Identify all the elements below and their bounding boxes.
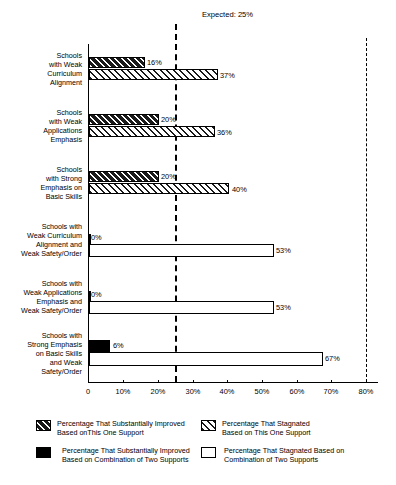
category-label: Schools with Weak Curriculum Alignment [4,51,82,87]
category-label-line: Strong Emphasis [2,340,82,349]
bar-stagnated[interactable] [89,183,229,194]
bar-value-label: 6% [113,341,124,350]
category-label-line: Curriculum [4,69,82,78]
x-axis-line [88,382,378,383]
legend-label-line: Percentage That Stagnated [222,419,372,428]
legend-item-stagnated-two-supports: Percentage That Stagnated Based on Combi… [224,446,374,465]
axis-tick-label: 20% [146,387,170,396]
legend-label-line: Percentage That Substantially Improved [62,446,202,455]
category-label-line: Basic Skills [4,192,82,201]
legend-label-line: Based onThis One Support [57,428,202,437]
axis-tick [123,380,124,383]
category-label: Schools with Weak Applications Emphasis … [2,279,82,315]
axis-tick-label: 30% [181,387,205,396]
category-label-line: Alignment [4,78,82,87]
bar-improved[interactable] [89,171,159,182]
legend-item-improved-one-support: Percentage That Substantially Improved B… [57,419,202,438]
legend-label-line: Based on This One Support [222,428,372,437]
axis-tick-label: 80% [354,387,378,396]
bar-value-label: 37% [220,71,235,80]
category-label-line: Weak Curriculum [2,231,82,240]
category-label-line: Alignment and [2,240,82,249]
category-label-line: Schools [4,108,82,117]
category-label-line: Emphasis and [2,297,82,306]
category-label-line: with Strong [4,174,82,183]
category-label-line: Applications [4,126,82,135]
axis-tick-label: 70% [319,387,343,396]
bar-improved[interactable] [89,57,145,68]
category-label-line: Schools [4,51,82,60]
bar-value-label: 53% [276,303,291,312]
legend-item-improved-two-supports: Percentage That Substantially Improved B… [62,446,202,465]
axis-tick-label: 40% [215,387,239,396]
legend-item-stagnated-one-support: Percentage That Stagnated Based on This … [222,419,372,438]
axis-tick [331,380,332,383]
category-label-line: Schools with [2,222,82,231]
axis-tick [262,380,263,383]
axis-tick [366,379,367,383]
category-label-line: with Weak [4,60,82,69]
axis-tick-label: 0 [78,387,98,396]
bar-value-label: 20% [161,115,176,124]
category-label-line: Safety/Order [2,367,82,376]
bar-value-label: 16% [147,58,162,67]
legend-label-line: Percentage That Stagnated Based on [224,446,374,455]
axis-tick-label: 10% [111,387,135,396]
category-label-line: and Weak [2,358,82,367]
legend-label-line: Percentage That Substantially Improved [57,419,202,428]
bar-value-label: 67% [325,354,340,363]
category-label-line: Emphasis [4,135,82,144]
bar-stagnated[interactable] [89,69,218,80]
legend-swatch-improved-one-support-icon [36,420,51,431]
legend-label-line: Based on Combination of Two Supports [62,455,202,464]
category-label-line: Schools with [2,331,82,340]
category-label-line: Weak Applications [2,288,82,297]
category-label: Schools with Weak Curriculum Alignment a… [2,222,82,258]
category-label-line: Weak Safety/Order [2,306,82,315]
legend-label-line: Combination of Two Supports [224,455,374,464]
y-axis-line [88,44,89,382]
axis-tick-label: 60% [285,387,309,396]
bar-stagnated[interactable] [89,244,274,257]
category-label: Schools with Strong Emphasis on Basic Sk… [2,331,82,376]
category-label-line: on Basic Skills [2,349,82,358]
bar-improved[interactable] [89,340,110,352]
category-label-line: Weak Safety/Order [2,249,82,258]
bar-value-label: 20% [161,172,176,181]
axis-tick [158,380,159,383]
axis-tick [88,379,89,383]
expected-line-label: Expected: 25% [202,10,253,19]
bar-value-label: 53% [276,246,291,255]
legend-swatch-stagnated-two-supports-icon [201,447,216,458]
category-label-line: Emphasis on [4,183,82,192]
legend-swatch-stagnated-one-support-icon [201,420,216,431]
axis-tick [193,380,194,383]
axis-tick [227,380,228,383]
upper-reference-line [366,38,367,382]
category-label-line: Schools with [2,279,82,288]
bar-value-label: 36% [217,128,232,137]
category-label-line: Schools [4,165,82,174]
bar-value-label: 40% [232,185,247,194]
bar-value-label: 0% [91,233,102,242]
category-label: Schools with Weak Applications Emphasis [4,108,82,144]
category-label-line: with Weak [4,117,82,126]
legend-swatch-improved-two-supports-icon [36,447,51,458]
category-label: Schools with Strong Emphasis on Basic Sk… [4,165,82,201]
bar-stagnated[interactable] [89,301,274,314]
bar-improved[interactable] [89,114,159,125]
bar-stagnated[interactable] [89,352,323,366]
axis-tick [297,380,298,383]
chart-canvas: Expected: 25% Schools with Weak Curricul… [0,0,396,485]
bar-value-label: 0% [91,290,102,299]
bar-stagnated[interactable] [89,126,215,137]
axis-tick-label: 50% [250,387,274,396]
